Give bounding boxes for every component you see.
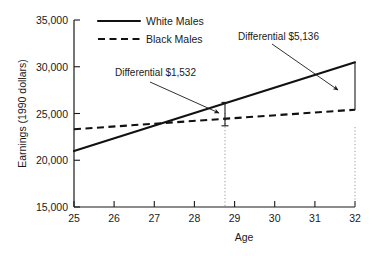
x-tick-marks [74, 201, 355, 207]
legend-label-white-males: White Males [146, 15, 204, 27]
y-tick-label: 20,000 [36, 154, 68, 166]
differential-bracket-left [222, 102, 229, 125]
annotation-leader-left [150, 82, 219, 113]
x-tick-labels: 25 26 27 28 29 30 31 32 [68, 212, 361, 224]
y-tick-label: 15,000 [36, 201, 68, 213]
guide-lines [225, 113, 355, 207]
legend-label-black-males: Black Males [146, 33, 203, 45]
y-tick-marks [74, 20, 80, 207]
x-tick-label: 30 [269, 212, 281, 224]
legend-item-black-males[interactable]: Black Males [98, 33, 203, 45]
x-tick-label: 26 [108, 212, 120, 224]
x-tick-label: 27 [148, 212, 160, 224]
x-tick-label: 28 [189, 212, 201, 224]
earnings-by-age-line-chart: 35,000 30,000 25,000 20,000 15,000 25 26… [0, 0, 384, 256]
y-axis-title: Earnings (1990 dollars) [16, 59, 28, 168]
y-tick-label: 35,000 [36, 14, 68, 26]
x-tick-label: 29 [229, 212, 241, 224]
x-tick-label: 31 [309, 212, 321, 224]
annotation-label-right: Differential $5,136 [238, 31, 319, 42]
series-black-males-line [74, 110, 355, 130]
axis-group [74, 20, 355, 207]
y-tick-label: 25,000 [36, 108, 68, 120]
y-tick-labels: 35,000 30,000 25,000 20,000 15,000 [36, 14, 68, 213]
annotation-label-left: Differential $1,532 [115, 67, 196, 78]
annotation-leader-right [272, 44, 338, 90]
x-tick-label: 25 [68, 212, 80, 224]
legend-item-white-males[interactable]: White Males [98, 15, 204, 27]
y-tick-label: 30,000 [36, 61, 68, 73]
legend: White Males Black Males [98, 15, 204, 45]
x-tick-label: 32 [349, 212, 361, 224]
x-axis-title: Age [235, 231, 254, 243]
chart-container: 35,000 30,000 25,000 20,000 15,000 25 26… [0, 0, 384, 256]
